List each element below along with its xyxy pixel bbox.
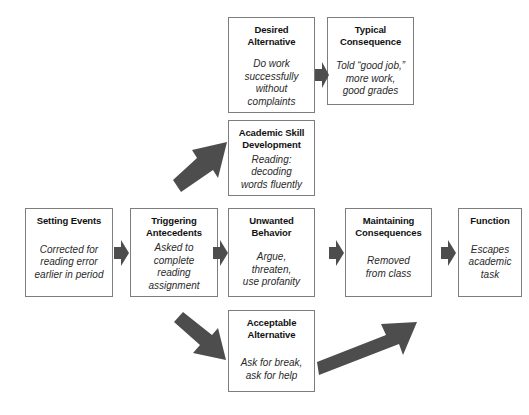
diagram-canvas: Desired Alternative Do work successfully… [0, 0, 529, 415]
box-function: Function Escapes academic task [458, 208, 522, 297]
arrow-maintaining-to-function [441, 240, 456, 266]
arrow-unwanted-to-maintaining [329, 240, 344, 266]
arrow-acceptable-to-typical [317, 322, 417, 375]
box-maintaining-consequences: Maintaining Consequences Removed from cl… [345, 208, 432, 297]
box-body: Escapes academic task [463, 244, 517, 282]
box-title: Desired Alternative [247, 24, 295, 47]
arrow-setting-to-triggering [114, 240, 129, 266]
box-title: Setting Events [37, 215, 102, 227]
box-setting-events: Setting Events Corrected for reading err… [25, 208, 113, 297]
box-desired-alternative: Desired Alternative Do work successfully… [228, 17, 315, 113]
box-title: Maintaining Consequences [355, 215, 421, 238]
box-title: Function [470, 215, 509, 227]
box-body: Reading: decoding words fluently [241, 154, 302, 192]
box-typical-consequence: Typical Consequence Told “good job,” mor… [327, 17, 414, 105]
box-body: Corrected for reading error earlier in p… [35, 244, 104, 282]
arrow-triggering-to-acceptable [174, 312, 226, 360]
box-body: Removed from class [366, 255, 412, 280]
arrow-triggering-to-unwanted [213, 240, 228, 266]
arrow-desired-to-typical [315, 62, 329, 88]
box-title: Acceptable Alternative [247, 317, 297, 340]
box-title: Typical Consequence [340, 24, 401, 47]
box-body: Do work successfully without complaints [245, 58, 299, 108]
box-acceptable-alternative: Acceptable Alternative Ask for break, as… [228, 310, 315, 392]
box-title: Unwanted Behavior [249, 215, 294, 238]
box-title: Triggering Antecedents [146, 215, 202, 238]
box-body: Told “good job,” more work, good grades [336, 60, 405, 98]
box-body: Ask for break, ask for help [241, 357, 303, 382]
box-academic-skill-development: Academic Skill Development Reading: deco… [228, 120, 315, 196]
box-body: Argue, threaten, use profanity [243, 251, 300, 289]
box-title: Academic Skill Development [239, 127, 305, 150]
arrow-triggering-to-academic-skill [173, 142, 227, 192]
box-body: Asked to complete reading assignment [148, 242, 199, 292]
box-unwanted-behavior: Unwanted Behavior Argue, threaten, use p… [228, 208, 315, 297]
box-triggering-antecedents: Triggering Antecedents Asked to complete… [130, 208, 218, 297]
